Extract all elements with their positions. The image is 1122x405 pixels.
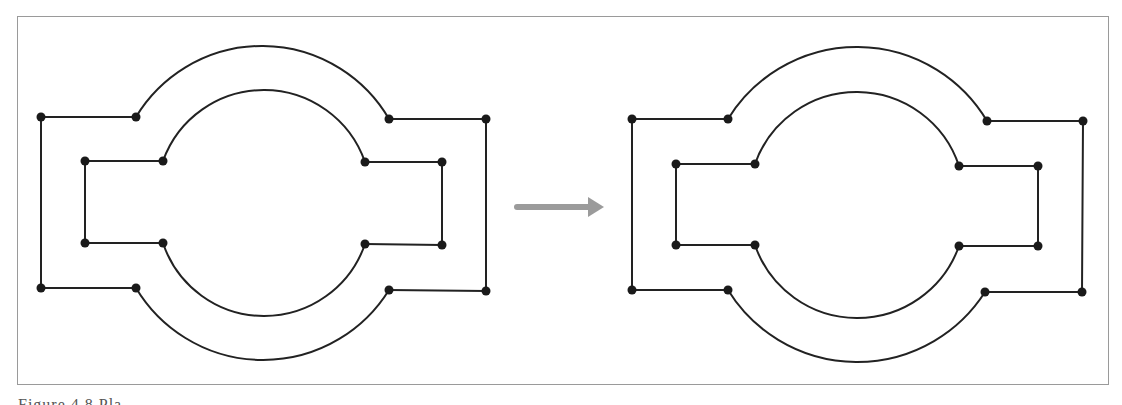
outer-edge <box>389 290 486 291</box>
figure-caption: Figure 4.8 Pla... <box>18 396 137 405</box>
outer-top-arc <box>728 47 987 121</box>
node-dot-icon <box>81 239 90 248</box>
node-dot-icon <box>159 239 168 248</box>
node-dot-icon <box>628 286 637 295</box>
diagram-panels <box>37 46 1088 362</box>
inner-top-arc <box>755 92 959 166</box>
inner-edge <box>365 244 442 245</box>
node-dot-icon <box>132 284 141 293</box>
node-dot-icon <box>361 240 370 249</box>
transform-arrow-icon <box>517 197 604 217</box>
node-dot-icon <box>385 286 394 295</box>
node-dot-icon <box>1034 242 1043 251</box>
figure-diagram <box>0 0 1122 405</box>
node-dot-icon <box>1034 162 1043 171</box>
inner-bottom-arc <box>163 243 365 316</box>
node-dot-icon <box>751 241 760 250</box>
node-dot-icon <box>81 157 90 166</box>
node-dot-icon <box>983 117 992 126</box>
node-dot-icon <box>132 113 141 122</box>
node-dot-icon <box>37 284 46 293</box>
panel-after <box>628 47 1088 362</box>
node-dot-icon <box>628 115 637 124</box>
outer-top-arc <box>136 46 389 119</box>
node-dot-icon <box>672 241 681 250</box>
node-dot-icon <box>1079 117 1088 126</box>
node-dot-icon <box>672 160 681 169</box>
node-dot-icon <box>482 115 491 124</box>
node-dot-icon <box>159 157 168 166</box>
node-dot-icon <box>724 115 733 124</box>
node-dot-icon <box>751 160 760 169</box>
outer-bottom-arc <box>728 290 985 362</box>
node-dot-icon <box>37 113 46 122</box>
inner-top-arc <box>163 90 365 162</box>
node-dot-icon <box>438 241 447 250</box>
node-dot-icon <box>1078 288 1087 297</box>
node-dot-icon <box>955 162 964 171</box>
outer-edge <box>1082 121 1083 292</box>
node-dot-icon <box>981 288 990 297</box>
node-dot-icon <box>438 158 447 167</box>
inner-bottom-arc <box>755 245 959 318</box>
node-dot-icon <box>955 242 964 251</box>
node-dot-icon <box>385 115 394 124</box>
node-dot-icon <box>361 158 370 167</box>
node-dot-icon <box>482 287 491 296</box>
panel-before <box>37 46 491 360</box>
node-dot-icon <box>724 286 733 295</box>
outer-bottom-arc <box>136 288 389 360</box>
